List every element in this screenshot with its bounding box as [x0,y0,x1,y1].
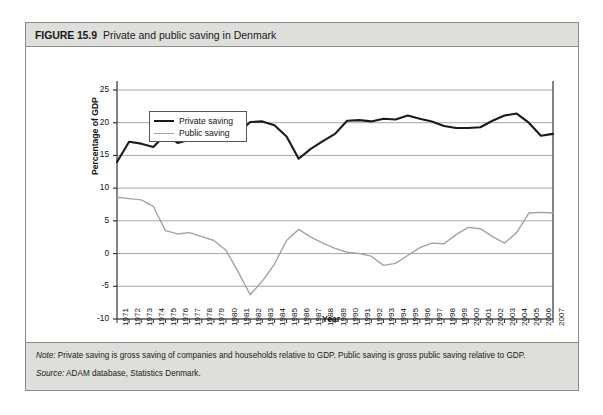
note-text: Private saving is gross saving of compan… [56,351,526,360]
x-tick-label: 1979 [217,308,226,326]
y-tick-label: 10 [85,182,109,192]
figure-header: FIGURE 15.9 Private and public saving in… [26,23,578,47]
figure-footer: Note: Private saving is gross saving of … [26,342,578,390]
x-tick-label: 1999 [460,308,469,326]
x-tick-label: 2001 [484,308,493,326]
figure-container: FIGURE 15.9 Private and public saving in… [25,22,579,391]
x-tick-label: 1976 [181,308,190,326]
x-tick-label: 1997 [435,308,444,326]
note-label: Note: [36,351,56,360]
x-tick-label: 1989 [339,308,348,326]
x-tick-label: 2006 [544,308,553,326]
series-line-public [117,197,553,294]
x-tick-label: 1973 [145,308,154,326]
source-label: Source: [36,369,64,378]
figure-source: Source: ADAM database, Statistics Denmar… [36,368,568,380]
x-tick-label: 2007 [557,308,566,326]
x-tick-label: 1980 [230,308,239,326]
y-tick-label: 20 [85,117,109,127]
y-tick-label: 15 [85,149,109,159]
y-tick-label: -5 [85,280,109,290]
x-tick-label: 1986 [302,308,311,326]
x-tick-label: 2003 [508,308,517,326]
legend-item-public: Public saving [154,127,242,139]
y-tick-label: 0 [85,248,109,258]
x-tick-label: 2000 [472,308,481,326]
x-tick-label: 1974 [157,308,166,326]
x-tick-label: 2004 [520,308,529,326]
x-tick-label: 1978 [205,308,214,326]
x-tick-label: 1995 [411,308,420,326]
legend-swatch-public-icon [154,133,174,134]
chart-plot-region: Percentage of GDP Year 2520151050-5-10 1… [26,47,578,342]
x-tick-label: 1972 [133,308,142,326]
x-tick-label: 1992 [375,308,384,326]
x-tick-label: 1981 [242,308,251,326]
chart-legend: Private saving Public saving [149,111,247,142]
x-tick-label: 2002 [496,308,505,326]
x-tick-label: 1998 [448,308,457,326]
x-tick-label: 1975 [169,308,178,326]
x-tick-label: 1984 [278,308,287,326]
source-text: ADAM database, Statistics Denmark. [64,369,201,378]
legend-label-private: Private saving [179,116,233,126]
x-tick-label: 1991 [363,308,372,326]
figure-note: Note: Private saving is gross saving of … [36,350,568,362]
legend-swatch-private-icon [154,120,174,122]
legend-item-private: Private saving [154,115,242,127]
x-tick-label: 1987 [314,308,323,326]
x-tick-label: 1990 [351,308,360,326]
x-tick-label: 1985 [290,308,299,326]
legend-label-public: Public saving [179,128,230,138]
x-tick-label: 1983 [266,308,275,326]
y-tick-label: -10 [85,313,109,323]
figure-number: FIGURE 15.9 [35,29,97,41]
y-axis-title: Percentage of GDP [90,97,100,175]
x-tick-label: 2005 [532,308,541,326]
x-tick-label: 1971 [121,308,130,326]
x-tick-label: 1994 [399,308,408,326]
figure-title: Private and public saving in Denmark [103,29,276,41]
x-tick-label: 1988 [326,308,335,326]
figure-page: FIGURE 15.9 Private and public saving in… [0,0,603,415]
x-tick-label: 1982 [254,308,263,326]
x-tick-label: 1996 [423,308,432,326]
y-tick-label: 25 [85,84,109,94]
x-tick-label: 1977 [193,308,202,326]
y-tick-label: 5 [85,215,109,225]
x-tick-label: 1993 [387,308,396,326]
